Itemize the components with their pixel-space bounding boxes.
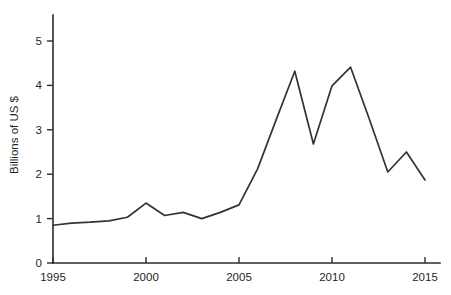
- y-axis-title-text: Billions of US $: [8, 95, 20, 174]
- y-tick-label: 1: [36, 213, 42, 225]
- data-series-line: [53, 67, 425, 225]
- y-tick-label: 5: [36, 35, 42, 47]
- y-tick-label: 0: [36, 257, 42, 269]
- x-tick-label: 2015: [412, 271, 438, 283]
- y-tick-label: 4: [36, 79, 43, 91]
- y-axis-title: Billions of US $: [8, 95, 20, 174]
- chart-figure: 012345 19952000200520102015 Billions of …: [0, 0, 451, 295]
- axis-ticks: [47, 41, 425, 263]
- x-tick-label: 2005: [226, 271, 252, 283]
- y-tick-label: 3: [36, 124, 42, 136]
- series-line-billions-usd: [53, 67, 425, 225]
- x-tick-label: 2010: [319, 271, 345, 283]
- x-tick-labels: 19952000200520102015: [40, 271, 438, 283]
- x-tick-label: 2000: [133, 271, 159, 283]
- x-tick-label: 1995: [40, 271, 66, 283]
- y-tick-labels: 012345: [36, 35, 43, 269]
- line-chart: 012345 19952000200520102015 Billions of …: [0, 0, 451, 295]
- y-tick-label: 2: [36, 168, 42, 180]
